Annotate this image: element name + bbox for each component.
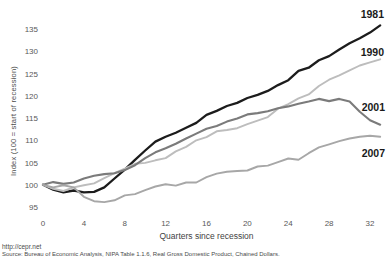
- x-tick-label: 16: [202, 219, 211, 228]
- y-tick-label: 115: [25, 114, 38, 123]
- x-tick-label: 4: [82, 219, 87, 228]
- x-tick-label: 20: [243, 219, 252, 228]
- y-tick-label: 110: [25, 136, 38, 145]
- x-tick-label: 24: [284, 219, 293, 228]
- x-tick-label: 0: [41, 219, 46, 228]
- plot-area: 9510010511011512012513013504812162024283…: [0, 0, 387, 259]
- y-tick-label: 120: [25, 92, 39, 101]
- x-tick-label: 28: [325, 219, 334, 228]
- line-series-1990: [43, 59, 380, 191]
- series-label-2001: 2001: [351, 101, 385, 113]
- line-series-1981: [43, 25, 380, 192]
- x-tick-label: 8: [123, 219, 128, 228]
- y-tick-label: 130: [25, 47, 39, 56]
- series-label-2007: 2007: [351, 147, 385, 159]
- series-label-1990: 1990: [350, 46, 384, 58]
- x-tick-label: 32: [366, 219, 375, 228]
- y-tick-label: 100: [25, 181, 39, 190]
- gdp-since-recession-chart: Index (100 = start of recession) 9510010…: [0, 0, 387, 259]
- x-axis-title: Quarters since recession: [43, 231, 370, 241]
- source-url: http://cepr.net: [2, 243, 41, 250]
- y-tick-label: 135: [25, 25, 39, 34]
- x-tick-label: 12: [161, 219, 170, 228]
- source-note: Source: Bureau of Economic Analysis, NIP…: [2, 251, 280, 257]
- y-tick-label: 105: [25, 159, 39, 168]
- series-label-1981: 1981: [350, 8, 384, 20]
- y-tick-label: 95: [29, 203, 38, 212]
- y-tick-label: 125: [25, 70, 39, 79]
